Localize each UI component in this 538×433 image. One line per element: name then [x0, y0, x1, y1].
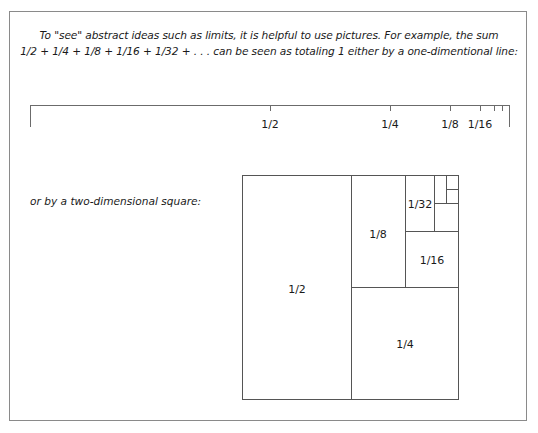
line-label-eighth: 1/8 [441, 118, 459, 131]
square-label-half: 1/2 [288, 283, 306, 296]
tick-end [509, 105, 510, 127]
intro-line-2: 1/2 + 1/4 + 1/8 + 1/16 + 1/32 + . . . ca… [0, 43, 538, 59]
tick-sixtyfourth [502, 105, 503, 111]
cell-512th [446, 175, 459, 190]
line-label-quarter: 1/4 [381, 118, 399, 131]
square-label-thirtysecond: 1/32 [408, 198, 433, 211]
tick-sixteenth [480, 105, 481, 111]
line-label-half: 1/2 [261, 118, 279, 131]
square-intro-text: or by a two-dimensional square: [30, 195, 201, 207]
intro-line-1: To "see" abstract ideas such as limits, … [0, 27, 538, 43]
cell-sixtyfourth [434, 203, 459, 232]
square-label-eighth: 1/8 [369, 228, 387, 241]
square-label-quarter: 1/4 [396, 338, 414, 351]
intro-text: To "see" abstract ideas such as limits, … [0, 27, 538, 59]
tick-half [270, 105, 271, 111]
tick-start [30, 105, 31, 127]
tick-eighth [450, 105, 451, 111]
line-label-sixteenth: 1/16 [468, 118, 493, 131]
tick-thirtysecond [494, 105, 495, 111]
cell-256th [446, 189, 459, 204]
tick-quarter [390, 105, 391, 111]
square-label-sixteenth: 1/16 [420, 254, 445, 267]
